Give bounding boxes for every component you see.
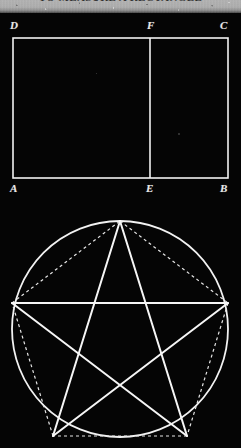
star-chord <box>53 221 120 436</box>
pentagon-edge <box>12 303 53 436</box>
vertex-label-E: E <box>146 183 153 194</box>
star-chord <box>12 303 187 436</box>
pentagon-edge <box>12 221 120 303</box>
pentagon-edge <box>120 221 228 303</box>
figure-pentagram-in-circle <box>0 205 241 448</box>
page-canvas: TO MEASURE A RECTANGLE 17 D F C A E B <box>0 0 241 448</box>
star-chord <box>53 303 228 436</box>
vertex-label-D: D <box>10 20 18 31</box>
rectangle-outline <box>13 38 228 178</box>
vertex-label-F: F <box>147 20 154 31</box>
page-folio-number: 17 <box>227 0 237 2</box>
star-chord <box>120 221 187 436</box>
vertex-label-B: B <box>220 183 227 194</box>
pentagram-diagram-svg <box>0 205 241 448</box>
scanned-page-header-strip: TO MEASURE A RECTANGLE 17 <box>0 0 241 13</box>
pentagram-star-chords <box>12 221 228 436</box>
pentagon-edge <box>187 303 228 436</box>
vertex-label-A: A <box>10 183 17 194</box>
vertex-label-C: C <box>220 20 227 31</box>
rectangle-diagram-svg <box>0 13 241 205</box>
running-title-text: TO MEASURE A RECTANGLE <box>0 0 241 3</box>
circumscribed-circle <box>12 221 228 437</box>
figure-rectangle-with-divider: D F C A E B <box>0 13 241 205</box>
